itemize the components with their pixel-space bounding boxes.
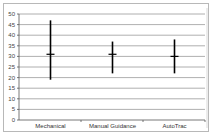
y-tick-label: 0 (12, 117, 16, 123)
y-tick-label: 25 (8, 64, 15, 70)
x-category-label: Mechanical (35, 123, 65, 129)
x-category-label: AutoTrac (162, 123, 186, 129)
y-tick-label: 30 (8, 53, 15, 59)
high-low-chart: 05101520253035404550MechanicalManual Gui… (0, 0, 211, 135)
y-tick-label: 10 (8, 96, 15, 102)
y-tick-label: 20 (8, 75, 15, 81)
y-tick-label: 5 (12, 106, 16, 112)
y-tick-label: 50 (8, 11, 15, 17)
y-tick-label: 45 (8, 22, 15, 28)
y-tick-label: 15 (8, 85, 15, 91)
x-category-label: Manual Guidance (89, 123, 137, 129)
y-tick-label: 40 (8, 32, 15, 38)
y-tick-label: 35 (8, 43, 15, 49)
